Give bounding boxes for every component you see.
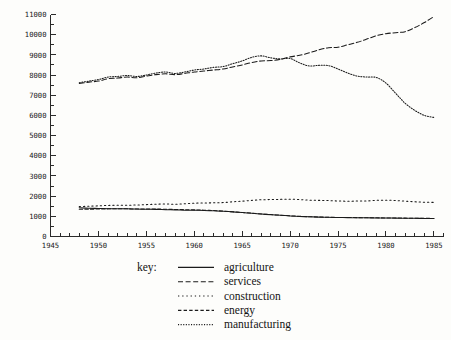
legend-label-construction: construction (224, 290, 281, 302)
y-axis-tick-label: 6000 (29, 111, 46, 120)
x-axis-tick-label: 1950 (90, 241, 107, 250)
series-line-manufacturing (79, 56, 434, 118)
legend-label-services: services (224, 275, 262, 287)
x-axis-tick-label: 1965 (234, 241, 251, 250)
series-line-construction (79, 199, 434, 206)
series-line-services (79, 17, 434, 84)
x-axis-tick-label: 1945 (42, 241, 59, 250)
series-line-agriculture (79, 208, 434, 219)
x-axis-tick-label: 1980 (377, 241, 394, 250)
y-axis-tick-label: 4000 (29, 151, 46, 160)
line-chart: 0100020003000400050006000700080009000100… (0, 0, 451, 340)
x-axis-tick-label: 1970 (281, 241, 298, 250)
legend-label-manufacturing: manufacturing (224, 318, 291, 331)
legend-label-agriculture: agriculture (224, 261, 274, 274)
y-axis-tick-label: 11000 (25, 10, 47, 19)
series-line-energy (79, 209, 434, 219)
chart-container: 0100020003000400050006000700080009000100… (0, 0, 451, 340)
y-axis-tick-label: 2000 (29, 192, 46, 201)
x-axis: 194519501955196019651970197519801985 (42, 231, 444, 250)
x-axis-tick-label: 1955 (138, 241, 155, 250)
x-axis-tick-label: 1975 (329, 241, 346, 250)
series-layer (79, 17, 434, 219)
y-axis-tick-label: 1000 (29, 212, 46, 221)
y-axis-tick-label: 5000 (29, 131, 46, 140)
y-axis-tick-label: 8000 (29, 71, 46, 80)
legend-label-energy: energy (224, 304, 255, 317)
y-axis-tick-label: 9000 (29, 51, 46, 60)
x-axis-tick-label: 1985 (425, 241, 442, 250)
chart-legend: key:agricultureservicesconstructionenerg… (137, 261, 291, 331)
y-axis-tick-label: 3000 (29, 172, 46, 181)
legend-key-label: key: (137, 261, 157, 274)
y-axis-tick-label: 7000 (29, 91, 46, 100)
y-axis: 0100020003000400050006000700080009000100… (25, 10, 56, 241)
y-axis-tick-label: 10000 (25, 30, 47, 39)
x-axis-tick-label: 1960 (186, 241, 203, 250)
